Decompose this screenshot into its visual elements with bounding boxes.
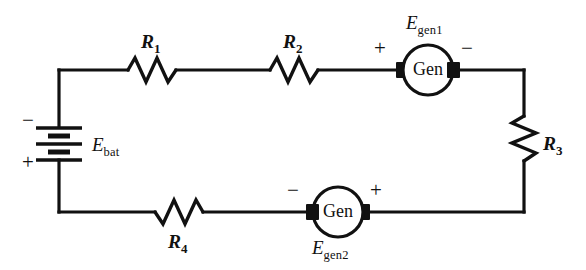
resistor-r2-label-sub: 2: [296, 41, 303, 56]
resistor-r1-label-main: R: [141, 31, 154, 52]
resistor-r1-label-sub: 1: [154, 41, 161, 56]
battery-label-main: E: [92, 134, 104, 155]
resistor-r2-label-main: R: [283, 31, 296, 52]
resistor-r3-label: R3: [543, 134, 563, 157]
resistor-r4-symbol: [155, 200, 203, 224]
battery-terminal-positive-sign: +: [22, 152, 34, 173]
resistor-r2-label: R2: [283, 32, 303, 55]
battery-label-sub: bat: [104, 145, 120, 159]
resistor-r1-symbol: [128, 58, 176, 82]
gen1-label: Egen1: [406, 13, 443, 36]
gen2-terminal-negative-sign: −: [287, 180, 299, 201]
resistor-r4-label: R4: [168, 232, 188, 255]
gen2-terminal-positive-sign: +: [370, 180, 382, 201]
gen2-label-sub: gen2: [324, 248, 349, 262]
circuit-diagram: Gen Gen − + Ebat Egen1 + − Egen2 − + R1 …: [0, 0, 586, 270]
resistor-r4-label-main: R: [168, 231, 181, 252]
gen1-body-label: Gen: [403, 60, 453, 78]
gen1-terminal-positive-sign: +: [374, 38, 386, 59]
resistor-r3-label-main: R: [543, 133, 556, 154]
gen2-label: Egen2: [312, 238, 349, 261]
resistor-r3-label-sub: 3: [556, 143, 563, 158]
resistor-r3-symbol: [512, 116, 536, 161]
gen1-label-sub: gen1: [418, 23, 443, 37]
battery-terminal-negative-sign: −: [22, 110, 34, 131]
resistor-r2-symbol: [270, 58, 318, 82]
gen1-label-main: E: [406, 12, 418, 33]
gen1-terminal-negative-sign: −: [461, 38, 473, 59]
gen2-body-label: Gen: [313, 202, 363, 220]
resistor-r4-label-sub: 4: [181, 241, 188, 256]
resistor-r1-label: R1: [141, 32, 161, 55]
gen2-label-main: E: [312, 237, 324, 258]
battery-label: Ebat: [92, 135, 119, 158]
